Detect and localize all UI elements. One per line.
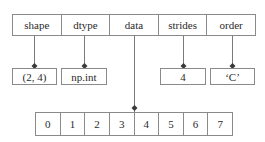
shape-value-box: (2, 4) bbox=[12, 68, 57, 85]
buffer-cell: 2 bbox=[85, 113, 110, 135]
ndarray-diagram: shape dtype data strides order (2, 4) np… bbox=[0, 0, 265, 142]
order-value-box: ‘C’ bbox=[210, 68, 255, 85]
buffer-cell: 7 bbox=[208, 113, 232, 135]
buffer-cell: 6 bbox=[184, 113, 209, 135]
buffer-cell: 1 bbox=[61, 113, 86, 135]
data-marker-icon bbox=[132, 105, 138, 111]
buffer-cell: 0 bbox=[36, 113, 61, 135]
dtype-value-box: np.int bbox=[61, 68, 107, 85]
header-cell-order: order bbox=[207, 15, 255, 35]
header-cell-data: data bbox=[110, 15, 159, 35]
ndarray-attributes-row: shape dtype data strides order bbox=[12, 14, 256, 36]
header-cell-dtype: dtype bbox=[62, 15, 111, 35]
buffer-cell: 4 bbox=[135, 113, 160, 135]
buffer-cell: 5 bbox=[159, 113, 184, 135]
header-cell-strides: strides bbox=[159, 15, 208, 35]
buffer-cell: 3 bbox=[110, 113, 135, 135]
data-buffer-array: 0 1 2 3 4 5 6 7 bbox=[35, 112, 233, 136]
header-cell-shape: shape bbox=[13, 15, 62, 35]
strides-value-box: 4 bbox=[160, 68, 206, 85]
